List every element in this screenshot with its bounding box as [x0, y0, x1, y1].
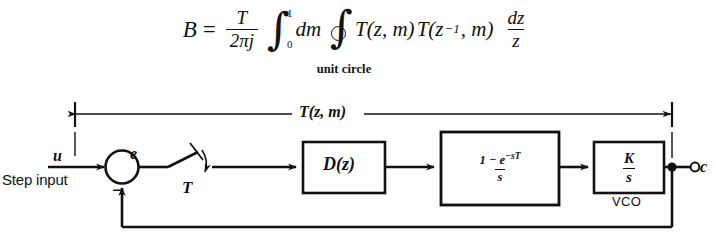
- equation-differential-fraction: dz z: [503, 8, 528, 51]
- output-node: [664, 162, 699, 171]
- coefficient-numerator: T: [233, 8, 252, 29]
- contour-integral-symbol: ∫: [330, 12, 352, 47]
- differential-denominator: z: [508, 29, 523, 51]
- span-arrow-label: T(z, m): [299, 104, 346, 120]
- zoh-numerator-exponent: −sT: [505, 151, 520, 161]
- vco-denominator: s: [623, 168, 635, 186]
- integrand-term-2-tail: , m): [461, 19, 494, 40]
- zero-order-hold-formula: 1 − e−sT s: [452, 150, 548, 186]
- vco-transfer-formula: K s: [600, 150, 658, 186]
- unit-circle-annotation-text: unit circle: [317, 62, 372, 76]
- integrand-term-2-base: T(z: [417, 19, 444, 40]
- vco-numerator: K: [621, 151, 637, 168]
- integrand-term-1: T(z, m): [355, 19, 415, 40]
- feedback-sign-label: −: [112, 180, 124, 201]
- equation-lhs: B: [183, 18, 197, 41]
- figure-page: B = T 2πj ∫ 1 0 dm ∫ T(z, m) T(z −1 ,: [0, 0, 714, 242]
- unit-circle-annotation: unit circle: [0, 62, 714, 77]
- definite-integral-symbol: ∫ 1 0: [267, 9, 292, 50]
- integral-measure-dm: dm: [295, 19, 321, 40]
- zoh-denominator: s: [495, 169, 506, 184]
- error-signal-path: [139, 152, 198, 167]
- controller-block-label: D(z): [323, 155, 355, 173]
- differential-numerator: dz: [503, 8, 528, 29]
- integral-glyph: ∫: [267, 13, 290, 45]
- step-input-caption: Step input: [2, 172, 68, 187]
- coefficient-denominator: 2πj: [226, 29, 258, 51]
- contour-ring-icon: [331, 26, 346, 41]
- zoh-numerator: 1 − e−sT: [477, 152, 524, 168]
- equation-equals-sign: =: [203, 18, 216, 41]
- sampler-switch-icon: [190, 143, 206, 172]
- block-diagram: Step input u e − T T(z, m) D(z) VCO c 1 …: [0, 88, 714, 242]
- error-signal-label: e: [130, 146, 137, 162]
- equation-row: B = T 2πj ∫ 1 0 dm ∫ T(z, m) T(z −1 ,: [0, 8, 714, 51]
- zoh-fraction: 1 − e−sT s: [477, 152, 524, 183]
- equation-coefficient-fraction: T 2πj: [226, 8, 258, 51]
- vco-caption: VCO: [612, 195, 641, 208]
- sampler-period-label: T: [182, 179, 192, 196]
- feedback-path: [122, 167, 672, 227]
- input-signal-label: u: [53, 148, 62, 164]
- equation-block: B = T 2πj ∫ 1 0 dm ∫ T(z, m) T(z −1 ,: [0, 0, 714, 88]
- output-signal-label: c: [700, 159, 707, 175]
- integrand-term-2-exponent: −1: [444, 21, 459, 37]
- zoh-numerator-base: 1 − e: [480, 154, 506, 168]
- vco-fraction: K s: [621, 151, 637, 185]
